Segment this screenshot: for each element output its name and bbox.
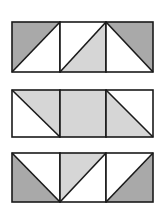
- tile-row-1: [12, 22, 153, 72]
- tile-cell: [106, 22, 153, 72]
- tile-cell: [60, 90, 106, 137]
- tile-row-2: [12, 90, 153, 137]
- triangle-tile-diagram: [0, 0, 163, 215]
- tile-cell: [12, 22, 60, 72]
- tile-cell: [12, 90, 60, 137]
- tile-cell: [12, 153, 60, 202]
- tile-row-3: [12, 153, 153, 202]
- tile-cell: [106, 90, 153, 137]
- tile-cell: [60, 22, 106, 72]
- tile-cell: [60, 153, 106, 202]
- tile-cell: [106, 153, 153, 202]
